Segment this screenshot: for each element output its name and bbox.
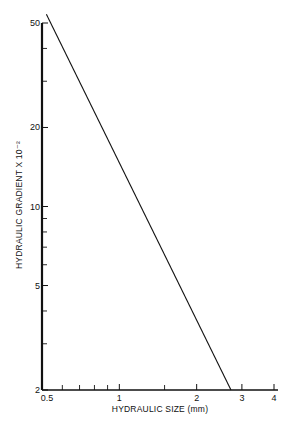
data-line	[46, 14, 231, 390]
x-tick-label: 1	[117, 393, 122, 403]
series-line	[46, 14, 231, 390]
y-tick-label: 20	[30, 122, 40, 132]
x-tick-label: 2	[194, 393, 199, 403]
x-axis-title: HYDRAULIC SIZE (mm)	[112, 404, 208, 414]
y-axis-title: HYDRAULIC GRADIENT X 10⁻²	[14, 141, 24, 269]
chart: 25102050 0.51234 HYDRAULIC SIZE (mm) HYD…	[0, 0, 291, 425]
y-axis: 25102050	[30, 18, 48, 395]
x-tick-label: 0.5	[41, 393, 54, 403]
x-axis: 0.51234	[41, 384, 278, 403]
x-tick-label: 3	[239, 393, 244, 403]
y-tick-label: 2	[35, 385, 40, 395]
y-tick-label: 50	[30, 18, 40, 28]
y-tick-label: 10	[30, 202, 40, 212]
x-tick-label: 4	[271, 393, 276, 403]
y-tick-label: 5	[35, 281, 40, 291]
